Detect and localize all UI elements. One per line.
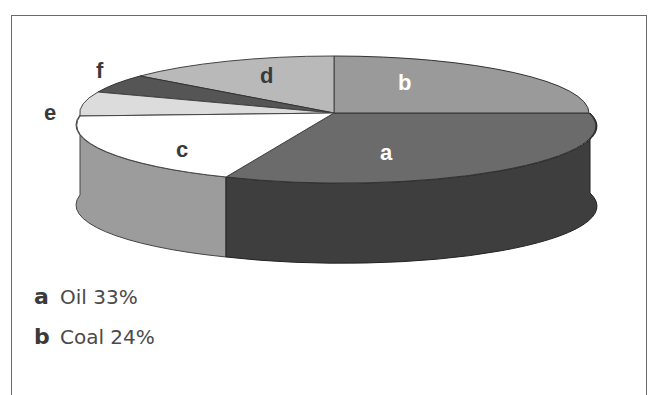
slice-b-top: [334, 56, 589, 113]
slice-label-e: e: [44, 100, 56, 125]
slice-label-b: b: [398, 70, 411, 95]
slice-label-f: f: [96, 58, 104, 83]
legend-text: Oil 33%: [60, 285, 138, 309]
slice-label-a: a: [380, 140, 393, 165]
legend-text: Coal 24%: [60, 325, 155, 349]
legend-key: a: [34, 284, 58, 309]
legend-item-a: a Oil 33%: [34, 284, 155, 324]
legend: a Oil 33% b Coal 24%: [34, 284, 155, 364]
legend-item-b: b Coal 24%: [34, 324, 155, 364]
slice-label-c: c: [176, 137, 188, 162]
legend-key: b: [34, 324, 58, 349]
slice-label-d: d: [260, 63, 273, 88]
